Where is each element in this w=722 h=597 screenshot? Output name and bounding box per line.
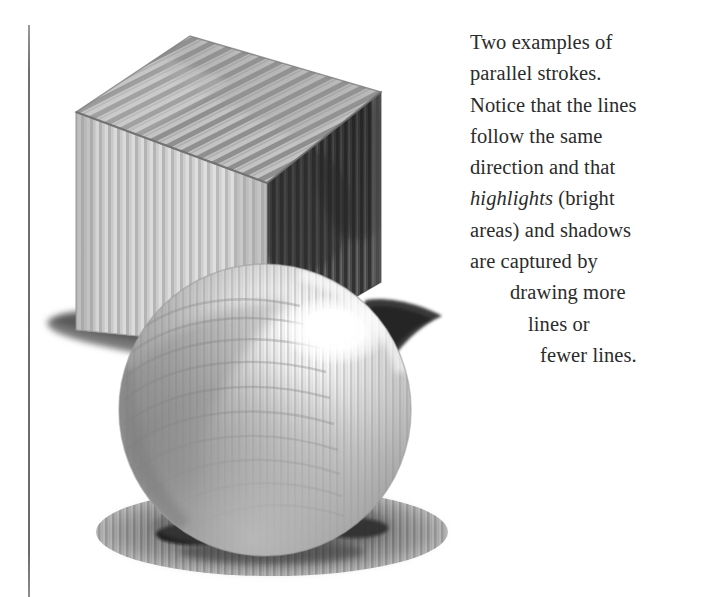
illustration-artwork <box>0 0 470 597</box>
caption-emphasis-highlights: highlights <box>470 187 553 209</box>
caption-line-5: direction and that <box>470 152 720 183</box>
caption-line-6: highlights (bright <box>470 183 720 214</box>
caption-line-2: parallel strokes. <box>470 58 720 89</box>
caption-line-6-rest: (bright <box>553 187 615 209</box>
cube-and-sphere-drawing <box>0 0 470 597</box>
illustration-page: Two examples of parallel strokes. Notice… <box>0 0 722 597</box>
caption-text-block: Two examples of parallel strokes. Notice… <box>470 27 720 371</box>
caption-line-1: Two examples of <box>470 27 720 58</box>
caption-line-3: Notice that the lines <box>470 90 720 121</box>
caption-line-8: are captured by <box>470 246 720 277</box>
caption-line-11: fewer lines. <box>470 340 720 371</box>
caption-line-7: areas) and shadows <box>470 215 720 246</box>
caption-line-10: lines or <box>470 309 720 340</box>
caption-line-4: follow the same <box>470 121 720 152</box>
caption-line-9: drawing more <box>470 277 720 308</box>
